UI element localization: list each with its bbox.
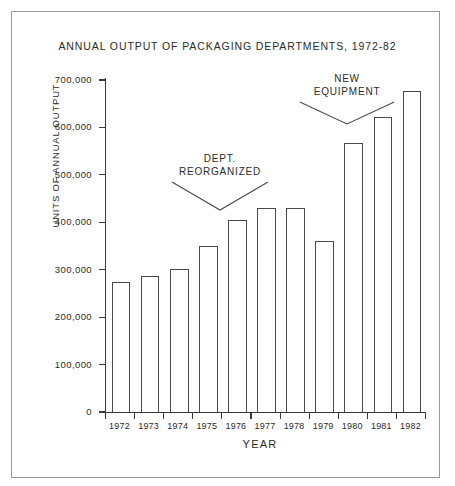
- x-tick: [250, 412, 251, 419]
- x-tick: [280, 412, 281, 419]
- bar: [112, 282, 131, 412]
- y-tick-label: 300,000: [22, 264, 92, 275]
- annotation-line-2: EQUIPMENT: [288, 85, 406, 98]
- x-tick: [309, 412, 310, 419]
- y-tick-label: 100,000: [22, 359, 92, 370]
- x-tick: [163, 412, 164, 419]
- y-tick-label: 600,000: [22, 121, 92, 132]
- x-tick: [105, 412, 106, 419]
- bar: [199, 246, 218, 412]
- annotation-new-equipment: NEW EQUIPMENT: [288, 72, 406, 98]
- y-tick: [99, 127, 105, 128]
- bar-chart: ANNUAL OUTPUT OF PACKAGING DEPARTMENTS, …: [0, 0, 455, 486]
- bar: [170, 269, 189, 412]
- annotation-line-2: REORGANIZED: [160, 165, 280, 178]
- y-tick: [99, 222, 105, 223]
- y-tick: [99, 364, 105, 365]
- bar: [374, 117, 393, 412]
- bar: [228, 220, 247, 412]
- y-tick-label: 200,000: [22, 311, 92, 322]
- annotation-dept-reorganized: DEPT. REORGANIZED: [160, 152, 280, 178]
- x-tick: [367, 412, 368, 419]
- y-tick: [99, 174, 105, 175]
- y-tick-label: 0: [22, 406, 92, 417]
- x-tick: [192, 412, 193, 419]
- x-tick: [396, 412, 397, 419]
- y-tick-label: 500,000: [22, 169, 92, 180]
- bar: [315, 241, 334, 412]
- x-tick-label: 1982: [390, 421, 430, 431]
- bar: [403, 91, 422, 412]
- bar: [141, 276, 160, 412]
- y-tick-label: 400,000: [22, 216, 92, 227]
- annotation-pointer: [172, 182, 268, 210]
- bar: [286, 208, 305, 412]
- annotation-line-1: NEW: [288, 72, 406, 85]
- x-tick: [425, 412, 426, 419]
- chart-title: ANNUAL OUTPUT OF PACKAGING DEPARTMENTS, …: [0, 40, 455, 52]
- y-tick: [99, 79, 105, 80]
- x-tick: [134, 412, 135, 419]
- bar: [257, 208, 276, 412]
- x-tick: [221, 412, 222, 419]
- y-axis-line: [105, 78, 106, 413]
- y-tick: [99, 317, 105, 318]
- y-tick: [99, 269, 105, 270]
- bar: [344, 143, 363, 412]
- x-tick: [338, 412, 339, 419]
- x-axis-title: YEAR: [95, 438, 425, 450]
- annotation-line-1: DEPT.: [160, 152, 280, 165]
- y-tick-label: 700,000: [22, 74, 92, 85]
